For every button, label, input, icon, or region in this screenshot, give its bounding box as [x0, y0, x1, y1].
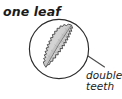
label-teeth-word: teeth: [86, 81, 122, 92]
leaf-diagram: one leaf double teeth: [0, 0, 122, 99]
label-one-leaf: one leaf: [3, 6, 61, 19]
label-double-teeth: double teeth: [86, 70, 122, 91]
